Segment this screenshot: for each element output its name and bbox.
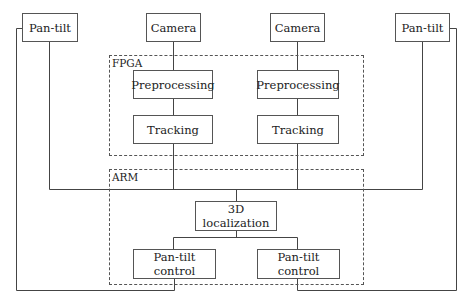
preprocessing-left-label: Preprocessing — [131, 78, 214, 92]
localization-node: 3D localization — [195, 201, 277, 231]
pan-tilt-control-left-line1: Pan-tilt — [154, 250, 196, 264]
pan-tilt-control-left-line2: control — [154, 264, 196, 278]
camera-left-label: Camera — [151, 21, 197, 35]
pan-tilt-left-label: Pan-tilt — [29, 21, 71, 35]
tracking-left-node: Tracking — [133, 115, 213, 144]
camera-left-node: Camera — [146, 13, 201, 42]
preprocessing-left-node: Preprocessing — [133, 70, 213, 99]
pan-tilt-control-right-line1: Pan-tilt — [278, 250, 320, 264]
arm-label: ARM — [112, 171, 138, 183]
pan-tilt-control-right-node: Pan-tilt control — [257, 249, 340, 279]
localization-label-line1: 3D — [228, 202, 245, 216]
fpga-label: FPGA — [112, 57, 142, 69]
tracking-right-node: Tracking — [257, 115, 339, 144]
pan-tilt-control-left-node: Pan-tilt control — [133, 249, 216, 279]
tracking-right-label: Tracking — [272, 123, 324, 137]
preprocessing-right-label: Preprocessing — [256, 78, 339, 92]
localization-label-line2: localization — [203, 216, 270, 230]
pan-tilt-control-right-line2: control — [278, 264, 320, 278]
preprocessing-right-node: Preprocessing — [257, 70, 339, 99]
pan-tilt-right-node: Pan-tilt — [395, 13, 450, 42]
pan-tilt-right-label: Pan-tilt — [402, 21, 444, 35]
camera-right-label: Camera — [275, 21, 321, 35]
tracking-left-label: Tracking — [147, 123, 199, 137]
pan-tilt-left-node: Pan-tilt — [22, 13, 78, 42]
camera-right-node: Camera — [270, 13, 325, 42]
